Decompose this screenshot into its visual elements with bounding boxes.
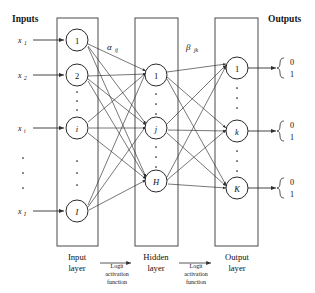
neural-network-figure: Inputs Outputs <box>0 0 315 293</box>
hidden-output-connections <box>167 64 226 188</box>
input-layer-nodes: 1 2 i I <box>66 29 88 222</box>
node-input-2-label: 2 <box>75 71 79 81</box>
output-bit-2-1: 1 <box>290 133 294 142</box>
output-bit-3-0: 0 <box>290 178 294 187</box>
input-label-1: x <box>17 36 22 45</box>
output-bit-1-0: 0 <box>290 58 294 67</box>
transition-2-line1: Logit <box>190 263 203 269</box>
weight-label-beta: β jk <box>185 42 199 53</box>
input-layer-ellipsis-upper <box>76 91 78 111</box>
weight-label-alpha: α ij <box>107 42 119 53</box>
beta-subscript: jk <box>193 47 199 53</box>
beta-glyph: β <box>185 42 191 52</box>
input-hidden-connections <box>88 44 146 210</box>
output-bit-2-0: 0 <box>290 121 294 130</box>
hidden-layer-ellipsis-lower <box>155 146 157 168</box>
node-output-k-label: k <box>235 127 239 137</box>
transition-1-line2: activation <box>105 271 129 277</box>
outputs-header: Outputs <box>268 14 302 24</box>
output-brace-2: 0 1 <box>277 121 294 142</box>
hidden-layer-caption-line1: Hidden <box>143 252 169 262</box>
transition-2-line2: activation <box>184 271 208 277</box>
input-label-2: x <box>17 71 22 80</box>
input-label-i: x <box>17 124 22 133</box>
input-signal-labels: x 1 x 2 x i x I <box>17 36 27 217</box>
input-layer-ellipsis-lower <box>76 160 78 186</box>
input-sub-1: 1 <box>24 40 27 46</box>
hidden-layer-ellipsis-upper <box>155 93 157 115</box>
output-bit-3-1: 1 <box>290 190 294 199</box>
transition-input-to-hidden: Logit activation function <box>100 263 131 285</box>
node-hidden-1-label: 1 <box>154 71 158 81</box>
node-output-1-label: 1 <box>235 64 239 74</box>
input-arrows <box>33 40 64 211</box>
output-layer-ellipsis-lower <box>236 150 238 172</box>
node-hidden-H-label: H <box>152 177 160 187</box>
input-sub-i: i <box>24 128 26 134</box>
inputs-header: Inputs <box>12 14 39 24</box>
input-sub-2: 2 <box>24 75 27 81</box>
alpha-subscript: ij <box>115 47 119 53</box>
input-layer-caption: Input layer <box>68 252 87 273</box>
hidden-layer-caption-line2: layer <box>147 263 164 273</box>
input-sub-I: I <box>23 211 27 217</box>
input-label-I: x <box>17 207 22 216</box>
transition-hidden-to-output: Logit activation function <box>179 263 211 285</box>
output-arrows <box>248 68 276 188</box>
transition-2-line3: function <box>186 279 206 285</box>
output-brace-1: 0 1 <box>277 58 294 79</box>
transition-1-line3: function <box>107 279 127 285</box>
output-layer-ellipsis-upper <box>236 87 238 109</box>
input-layer-caption-line2: layer <box>68 263 85 273</box>
transition-1-line1: Logit <box>111 263 124 269</box>
output-layer-caption-line2: layer <box>228 263 245 273</box>
output-layer-caption-line1: Output <box>225 252 249 262</box>
network-diagram-canvas: Inputs Outputs <box>0 0 315 293</box>
output-layer-caption: Output layer <box>225 252 249 273</box>
node-input-1-label: 1 <box>75 36 79 46</box>
hidden-layer-nodes: 1 j H <box>145 64 167 192</box>
alpha-glyph: α <box>107 42 112 52</box>
output-brace-3: 0 1 <box>277 178 294 199</box>
input-layer-caption-line1: Input <box>68 252 87 262</box>
output-layer-nodes: 1 k K <box>226 57 248 199</box>
output-bit-1-1: 1 <box>290 70 294 79</box>
hidden-layer-caption: Hidden layer <box>143 252 169 273</box>
input-signal-ellipsis <box>22 157 24 189</box>
